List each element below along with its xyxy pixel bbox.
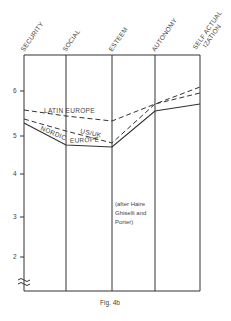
category-autonomy: AUTONOMY	[150, 16, 178, 52]
category-esteem: ESTEEM	[107, 26, 129, 53]
y-tick-5: 5	[13, 132, 17, 139]
source-note-1: (after Haire	[115, 201, 146, 207]
figure-caption: Fig. 4b	[100, 299, 120, 307]
plot-frame	[24, 55, 200, 291]
y-tick-6: 6	[13, 87, 17, 94]
label-europe: EUROPE	[70, 135, 100, 144]
category-security: SECURITY	[19, 20, 45, 53]
y-tick-2: 2	[13, 253, 17, 260]
chart: 6 5 4 3 2 SECURITY SOCIAL ESTEEM AUTONOM…	[0, 0, 231, 321]
category-social: SOCIAL	[61, 28, 81, 53]
source-note-3: Porter)	[115, 219, 133, 225]
y-tick-3: 3	[13, 213, 17, 220]
source-note-2: Ghiselli and	[115, 210, 146, 216]
y-tick-4: 4	[13, 170, 17, 177]
label-latin-europe: LATIN EUROPE	[44, 107, 95, 114]
y-ticks	[20, 91, 24, 257]
